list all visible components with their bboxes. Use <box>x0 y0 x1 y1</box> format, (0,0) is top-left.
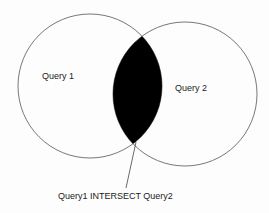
venn-diagram <box>0 0 269 213</box>
label-intersection: Query1 INTERSECT Query2 <box>58 191 173 201</box>
leader-line <box>126 142 136 188</box>
label-query1: Query 1 <box>42 71 74 81</box>
label-query2: Query 2 <box>175 83 207 93</box>
intersection-region <box>113 22 257 166</box>
